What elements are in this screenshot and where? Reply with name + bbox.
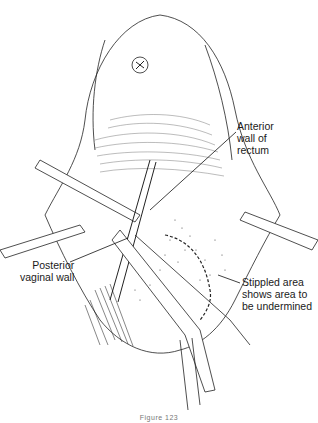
label-line: Stippled area bbox=[242, 276, 312, 288]
leader-stippled bbox=[218, 275, 240, 283]
stippled-area bbox=[134, 219, 225, 300]
label-posterior-vaginal-wall: Posterior vaginal wall bbox=[20, 259, 74, 283]
label-line: shows area to bbox=[242, 288, 312, 300]
leader-anterior bbox=[150, 132, 236, 210]
label-anterior-wall-of-rectum: Anterior wall of rectum bbox=[237, 120, 274, 156]
forceps bbox=[112, 230, 215, 392]
upper-clamp bbox=[35, 160, 140, 222]
label-line: be undermined bbox=[242, 300, 312, 312]
figure-caption: Figure 123 bbox=[0, 414, 318, 421]
label-line: Anterior bbox=[237, 120, 274, 132]
right-retractor bbox=[240, 212, 318, 250]
label-line: vaginal wall bbox=[20, 271, 74, 283]
left-retractor bbox=[0, 225, 85, 258]
label-line: wall of bbox=[237, 132, 274, 144]
label-line: rectum bbox=[237, 144, 274, 156]
label-stippled-area: Stippled area shows area to be undermine… bbox=[242, 276, 312, 312]
label-line: Posterior bbox=[20, 259, 74, 271]
surgical-illustration bbox=[0, 0, 318, 423]
